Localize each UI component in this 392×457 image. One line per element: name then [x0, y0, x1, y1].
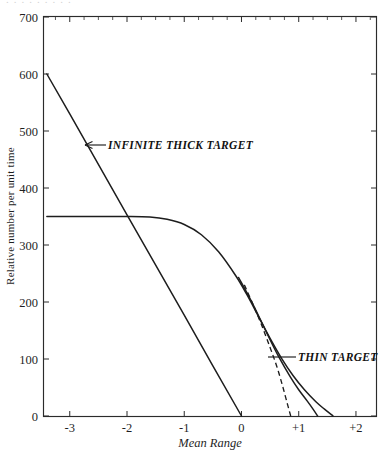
- curve-series-3: [239, 277, 318, 416]
- x-tick-label: +2: [349, 421, 362, 435]
- y-tick-label: 400: [19, 182, 38, 196]
- x-tick-label: 0: [238, 421, 244, 435]
- x-tick-label: -2: [122, 421, 132, 435]
- x-tick-label: -3: [65, 421, 75, 435]
- annotation-thin-target: THIN TARGET: [268, 351, 378, 363]
- chart-figure: -3-2-10+1+2 0100200300400500600700 Mean …: [0, 0, 392, 457]
- thin-target-label: THIN TARGET: [298, 351, 378, 363]
- data-curves: [47, 74, 333, 416]
- infinite-thick-target-label: INFINITE THICK TARGET: [107, 139, 254, 151]
- y-tick-label: 700: [19, 11, 38, 25]
- y-axis-title: Relative number per unit time: [4, 147, 16, 285]
- chart-svg: -3-2-10+1+2 0100200300400500600700 Mean …: [0, 0, 392, 457]
- y-tick-label: 0: [32, 410, 38, 424]
- x-tick-label: +1: [292, 421, 305, 435]
- y-tick-labels: 0100200300400500600700: [19, 11, 38, 424]
- y-tick-label: 300: [19, 239, 38, 253]
- y-tick-label: 600: [19, 68, 38, 82]
- annotation-infinite-thick-target: INFINITE THICK TARGET: [85, 139, 254, 151]
- x-axis-title: Mean Range: [177, 436, 242, 450]
- y-tick-label: 200: [19, 296, 38, 310]
- x-tick-labels: -3-2-10+1+2: [65, 421, 363, 435]
- x-tick-label: -1: [179, 421, 189, 435]
- y-tick-label: 500: [19, 125, 38, 139]
- curve-series-1: [47, 216, 333, 416]
- y-tick-label: 100: [19, 353, 38, 367]
- curve-series-2: [244, 285, 290, 416]
